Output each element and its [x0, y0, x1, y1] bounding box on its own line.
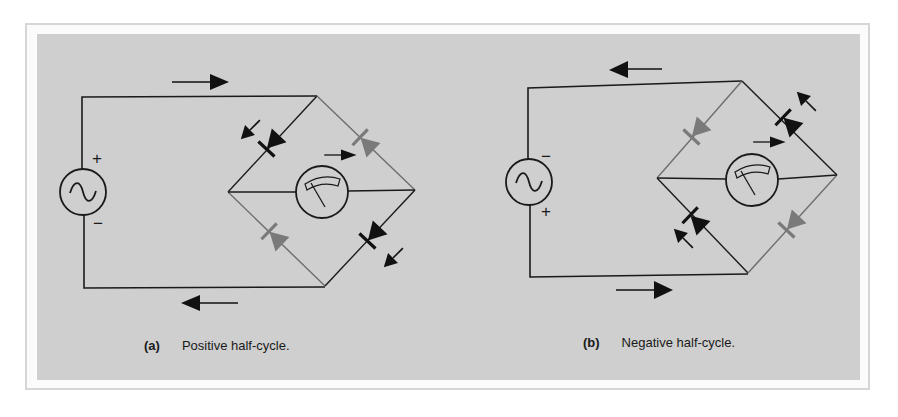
caption-text-b: Negative half-cycle.	[622, 335, 735, 350]
caption-tag-a: (a)	[144, 338, 160, 353]
bottom-current-arrow-b	[616, 281, 673, 299]
meter-icon	[296, 166, 348, 218]
polarity-top-a: +	[92, 149, 102, 168]
top-current-arrow-b	[609, 61, 662, 78]
circuit-a-positive-half-cycle: + −	[60, 74, 415, 311]
bottom-current-arrow-a	[181, 295, 238, 311]
diode-bottom-left-conducting-b	[681, 206, 711, 236]
meter-icon	[726, 154, 778, 206]
circuit-b-negative-half-cycle: − +	[506, 61, 837, 299]
caption-b: (b)Negative half-cycle.	[583, 335, 735, 350]
ac-source-icon	[60, 169, 106, 215]
caption-tag-b: (b)	[583, 335, 600, 350]
polarity-bottom-a: −	[93, 214, 103, 233]
diode-current-arrow-b2	[669, 224, 698, 253]
caption-a: (a)Positive half-cycle.	[144, 338, 290, 353]
meter-current-arrow-b	[753, 136, 785, 147]
meter-current-arrow-a	[324, 149, 356, 160]
diode-current-arrow-a1	[236, 115, 265, 144]
caption-text-a: Positive half-cycle.	[182, 338, 290, 353]
bridge-rectifier-diagram: + −	[0, 0, 898, 417]
bridge-b	[657, 81, 837, 273]
diode-current-arrow-a2	[379, 243, 408, 272]
diode-top-right-conducting-b	[774, 108, 804, 138]
polarity-top-b: −	[541, 147, 551, 166]
top-current-arrow-a	[172, 74, 229, 90]
diode-current-arrow-b1	[792, 87, 821, 116]
polarity-bottom-b: +	[541, 202, 551, 221]
